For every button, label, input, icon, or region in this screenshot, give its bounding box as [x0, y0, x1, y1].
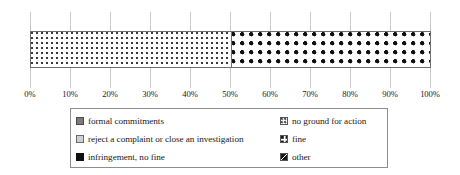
- segment-divider: [231, 32, 232, 67]
- legend-item-label: infringement, no fine: [88, 152, 165, 163]
- legend-swatch-icon: [76, 153, 84, 161]
- axis-tick-label: 10%: [62, 89, 77, 100]
- bar-track: [30, 31, 431, 68]
- legend-column-right: no ground for actionfineother: [280, 112, 384, 166]
- legend-item-label: formal commitments: [88, 116, 164, 127]
- legend-swatch-icon: [280, 117, 288, 125]
- axis-tick-label: 20%: [102, 89, 117, 100]
- legend-item[interactable]: infringement, no fine: [76, 148, 280, 166]
- bar-segment-fine: [231, 32, 431, 67]
- x-axis-tick-labels: 0%10%20%30%40%50%60%70%80%90%100%: [0, 89, 460, 103]
- axis-tick-label: 90%: [382, 89, 397, 100]
- legend-item[interactable]: formal commitments: [76, 112, 280, 130]
- axis-tick-label: 80%: [342, 89, 357, 100]
- legend-item[interactable]: reject a complaint or close an investiga…: [76, 130, 280, 148]
- legend-item[interactable]: other: [280, 148, 384, 166]
- axis-tick-label: 0%: [24, 89, 35, 100]
- stacked-bar-chart: 0%10%20%30%40%50%60%70%80%90%100% formal…: [0, 0, 460, 175]
- legend-item-label: other: [292, 152, 311, 163]
- axis-tick-label: 60%: [262, 89, 277, 100]
- axis-tick-label: 50%: [222, 89, 237, 100]
- axis-tick-label: 70%: [302, 89, 317, 100]
- legend-swatch-icon: [76, 117, 84, 125]
- legend-item-label: reject a complaint or close an investiga…: [88, 134, 243, 145]
- plot-area: [30, 12, 431, 88]
- legend: formal commitmentsreject a complaint or …: [70, 108, 388, 168]
- legend-swatch-icon: [76, 135, 84, 143]
- legend-swatch-icon: [280, 135, 288, 143]
- legend-item-label: fine: [292, 134, 306, 145]
- legend-item[interactable]: no ground for action: [280, 112, 384, 130]
- axis-tick-label: 30%: [142, 89, 157, 100]
- legend-column-left: formal commitmentsreject a complaint or …: [76, 112, 280, 166]
- legend-item-label: no ground for action: [292, 116, 366, 127]
- axis-tick-label: 100%: [420, 89, 440, 100]
- axis-tick-label: 40%: [182, 89, 197, 100]
- legend-swatch-icon: [280, 153, 288, 161]
- bar-segment-no-ground-for-action: [31, 32, 231, 67]
- legend-item[interactable]: fine: [280, 130, 384, 148]
- legend-grid: formal commitmentsreject a complaint or …: [76, 112, 384, 166]
